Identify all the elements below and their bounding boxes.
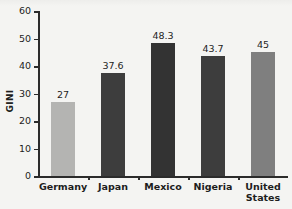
y-axis-tick-label: 60 <box>19 5 31 16</box>
x-axis-tick-mark <box>88 176 90 180</box>
bar <box>251 52 275 176</box>
bar <box>51 102 75 176</box>
y-axis-tick-label: 50 <box>19 33 31 44</box>
x-axis-category-label: Mexico <box>137 181 189 192</box>
bar-value-label: 37.6 <box>88 60 138 71</box>
bar-value-label: 45 <box>238 39 288 50</box>
gini-bar-chart: GINI 0102030405060 2737.648.343.745 Germ… <box>0 0 292 209</box>
bar <box>151 43 175 176</box>
y-axis-title: GINI <box>5 78 15 124</box>
x-axis-tick-mark <box>188 176 190 180</box>
y-axis-tick-mark <box>34 176 38 178</box>
y-axis-tick-label: 20 <box>19 115 31 126</box>
bar <box>201 56 225 176</box>
y-axis-tick-label: 10 <box>19 143 31 154</box>
bar <box>101 73 125 176</box>
x-axis-line <box>38 176 288 178</box>
y-axis-tick-label: 30 <box>19 88 31 99</box>
bar-value-label: 48.3 <box>138 30 188 41</box>
x-axis-category-label: Germany <box>37 181 89 192</box>
bar-value-label: 43.7 <box>188 43 238 54</box>
x-axis-tick-mark <box>238 176 240 180</box>
clipped-header-text <box>0 0 292 7</box>
y-axis-tick-label: 40 <box>19 60 31 71</box>
y-axis-tick-label: 0 <box>25 170 31 181</box>
x-axis-tick-mark <box>138 176 140 180</box>
x-axis-category-label: Nigeria <box>187 181 239 192</box>
bar-value-label: 27 <box>38 89 88 100</box>
x-axis-category-label: Japan <box>87 181 139 192</box>
x-axis-category-label: United States <box>237 181 289 203</box>
